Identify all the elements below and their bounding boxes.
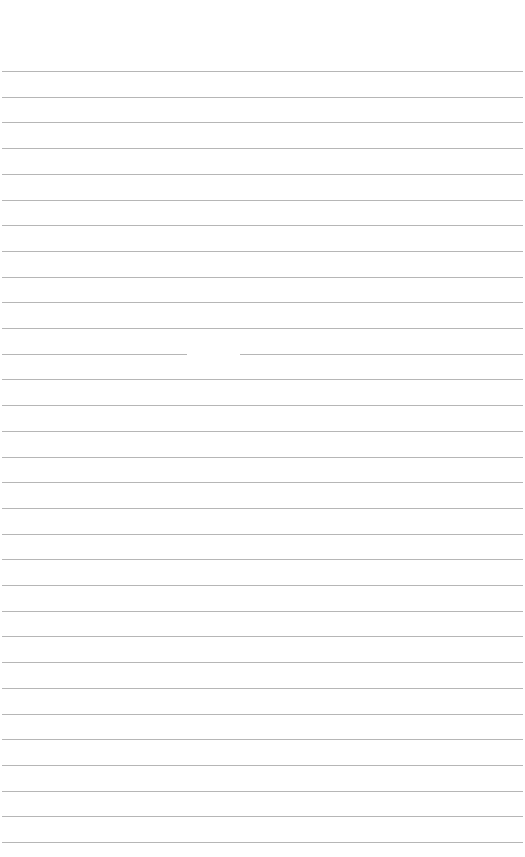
ruled-line	[2, 457, 523, 458]
ruled-line	[2, 277, 523, 278]
ruled-line	[2, 765, 523, 766]
ruled-line	[2, 405, 523, 406]
lined-paper-page	[0, 0, 525, 857]
ruled-line	[2, 739, 523, 740]
ruled-line	[2, 122, 523, 123]
ruled-line	[2, 200, 523, 201]
ruled-line	[2, 431, 523, 432]
ruled-line	[2, 688, 523, 689]
ruled-line	[2, 508, 523, 509]
ruled-line	[2, 251, 523, 252]
ruled-line-gap	[187, 353, 240, 356]
ruled-line	[2, 534, 523, 535]
ruled-line	[2, 559, 523, 560]
ruled-line	[2, 225, 523, 226]
ruled-line	[2, 174, 523, 175]
ruled-line	[2, 585, 523, 586]
ruled-line	[2, 379, 523, 380]
ruled-line	[2, 97, 523, 98]
ruled-line	[2, 148, 523, 149]
ruled-line	[2, 636, 523, 637]
ruled-line	[2, 842, 523, 843]
ruled-line	[2, 71, 523, 72]
ruled-line	[2, 354, 523, 355]
ruled-line	[2, 482, 523, 483]
ruled-line	[2, 714, 523, 715]
ruled-line	[2, 816, 523, 817]
ruled-line	[2, 611, 523, 612]
ruled-line	[2, 302, 523, 303]
ruled-line	[2, 791, 523, 792]
ruled-line	[2, 328, 523, 329]
ruled-line	[2, 662, 523, 663]
